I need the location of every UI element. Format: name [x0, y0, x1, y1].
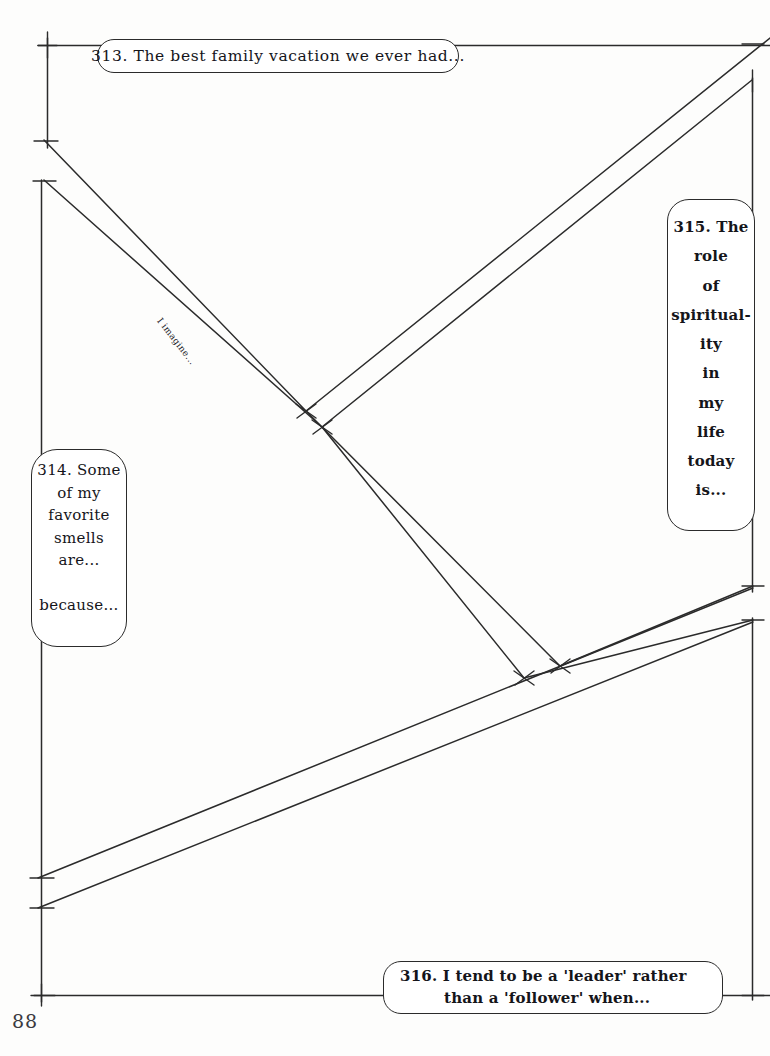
prompt-bubble-314[interactable]: 314. Some of my favorite smells are... b… — [31, 449, 127, 647]
prompt-bubble-315[interactable]: 315. The role of spiritual- ity in my li… — [667, 199, 755, 531]
prompt-314-text: 314. Some of my favorite smells are... b… — [32, 459, 126, 617]
prompt-313-text: 313. The best family vacation we ever ha… — [91, 48, 465, 64]
prompt-316-text: 316. I tend to be a 'leader' ratherthan … — [400, 966, 687, 1010]
prompt-bubble-313[interactable]: 313. The best family vacation we ever ha… — [97, 39, 459, 73]
diagonal-descending-outer — [44, 140, 306, 411]
diagonal-descending-lower-inner — [306, 411, 560, 666]
prompt-315-text: 315. The role of spiritual- ity in my li… — [668, 213, 754, 506]
prompt-316-line2: than a 'follower' when... — [400, 988, 687, 1010]
diagonal-ascending-bottom-inner — [38, 622, 753, 908]
page-number: 88 — [12, 1010, 38, 1032]
worksheet-page: 313. The best family vacation we ever ha… — [0, 0, 770, 1056]
diagonal-ascending-bottom-outer — [38, 588, 753, 878]
diagonal-ascending-mid-inner — [524, 620, 753, 678]
prompt-bubble-316[interactable]: 316. I tend to be a 'leader' ratherthan … — [383, 961, 723, 1014]
diagonal-descending-inner — [44, 180, 322, 427]
diagonal-descending-lower-outer — [322, 427, 524, 678]
prompt-316-line1: 316. I tend to be a 'leader' rather — [400, 967, 687, 985]
